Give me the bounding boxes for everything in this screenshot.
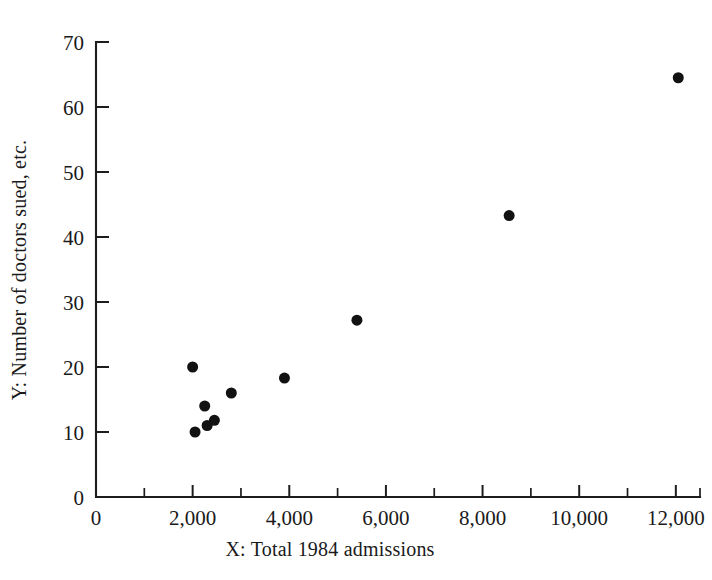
y-tick-label-60: 60 <box>63 96 84 120</box>
x-tick-label-group: 02,0004,0006,0008,00010,00012,000 <box>91 506 705 530</box>
data-point <box>279 373 290 384</box>
y-tick-mark-group <box>96 42 109 497</box>
y-tick-label-0: 0 <box>74 486 85 510</box>
x-tick-label-10000: 10,000 <box>550 506 608 530</box>
y-tick-label-70: 70 <box>63 31 84 55</box>
data-point <box>209 415 220 426</box>
data-point <box>504 210 515 221</box>
axis-spine <box>96 42 700 497</box>
x-tick-label-2000: 2,000 <box>169 506 216 530</box>
y-tick-label-50: 50 <box>63 161 84 185</box>
data-point <box>190 427 201 438</box>
data-point-group <box>187 72 684 437</box>
x-tick-label-8000: 8,000 <box>459 506 506 530</box>
x-axis-title: X: Total 1984 admissions <box>225 538 434 560</box>
x-tick-label-4000: 4,000 <box>266 506 313 530</box>
data-point <box>351 315 362 326</box>
data-point <box>673 72 684 83</box>
x-tick-mark-group <box>96 485 700 497</box>
y-axis-title: Y: Number of doctors sued, etc. <box>8 140 30 400</box>
x-tick-label-12000: 12,000 <box>647 506 705 530</box>
y-tick-label-30: 30 <box>63 291 84 315</box>
scatter-plot-figure: 010203040506070 02,0004,0006,0008,00010,… <box>0 0 712 580</box>
data-point <box>199 401 210 412</box>
y-tick-label-40: 40 <box>63 226 84 250</box>
x-tick-label-6000: 6,000 <box>362 506 409 530</box>
plot-canvas: 010203040506070 02,0004,0006,0008,00010,… <box>0 0 712 580</box>
data-point <box>187 362 198 373</box>
y-tick-label-20: 20 <box>63 356 84 380</box>
y-tick-label-10: 10 <box>63 421 84 445</box>
data-point <box>226 388 237 399</box>
y-tick-label-group: 010203040506070 <box>63 31 84 510</box>
axis-line-group <box>96 42 700 497</box>
x-tick-label-0: 0 <box>91 506 102 530</box>
